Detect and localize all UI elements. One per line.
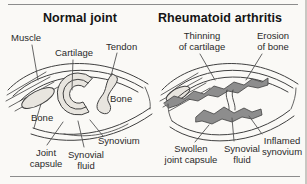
muscle-leader-line [32,45,38,80]
normal-joint-title: Normal joint [10,11,150,25]
inflamed-synovium-leader-line [249,116,262,134]
label-tendon: Tendon [106,41,148,52]
label-bone-lower: Bone [31,112,65,123]
label-joint-capsule: Joint capsule [24,147,68,169]
tendon-leader-line [111,53,117,76]
rheumatoid-arthritis-title: Rheumatoid arthritis [150,11,290,25]
inflamed-synovium-blob [196,107,262,124]
ra-joint-illustration [160,54,298,142]
ra-leader-lines [195,54,262,142]
label-erosion-of-bone: Erosion of bone [247,30,299,52]
thinned-cartilage-strands [226,90,235,110]
label-synovium: Synovium [98,135,146,146]
synovium-leader-line [90,120,103,136]
label-inflamed-synovium: Inflamed synovium [256,135,307,157]
joint-capsule-leader-line [47,122,63,145]
label-thinning-of-cartilage: Thinning of cartilage [174,30,230,52]
label-swollen-joint-capsule: Swollen joint capsule [158,143,224,165]
label-synovial-fluid-left: Synovial fluid [64,149,108,171]
label-bone-upper: Bone [110,93,144,104]
label-cartilage: Cartilage [55,47,103,58]
label-muscle: Muscle [11,32,55,43]
joint-comparison-figure: Normal joint Rheumatoid arthritis Muscle… [0,0,307,184]
